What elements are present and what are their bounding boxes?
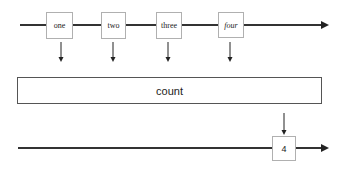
input-item-four: four <box>218 12 244 38</box>
input-to-operator-arrows <box>59 42 233 62</box>
operator-label: count <box>156 85 183 97</box>
input-item-label: two <box>108 21 120 30</box>
input-item-label: four <box>224 21 237 30</box>
arrow-down-icon <box>166 57 171 62</box>
input-item-one: one <box>46 12 73 39</box>
operator-to-output-arrow <box>282 113 287 135</box>
operator-box: count <box>17 77 322 104</box>
arrow-down-icon <box>59 57 64 62</box>
marble-diagram: one two three four count 4 <box>0 0 342 175</box>
arrow-down-icon <box>111 57 116 62</box>
input-item-three: three <box>156 12 182 39</box>
arrow-down-icon <box>228 57 233 62</box>
input-item-label: three <box>161 21 177 30</box>
arrow-down-icon <box>282 130 287 135</box>
output-item-label: 4 <box>281 144 286 154</box>
input-timeline-arrowhead-icon <box>321 21 329 29</box>
output-timeline-arrowhead-icon <box>321 144 329 152</box>
output-item: 4 <box>272 136 296 161</box>
input-item-two: two <box>101 12 126 39</box>
input-item-label: one <box>54 21 66 30</box>
